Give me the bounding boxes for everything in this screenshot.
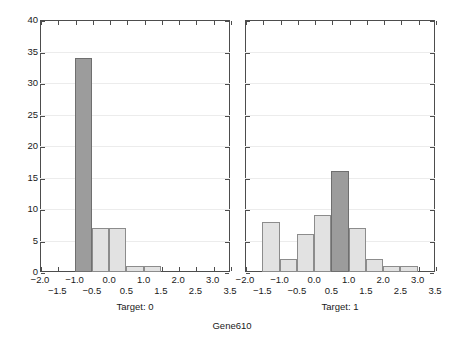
x-tick-label: 3.5 [428,286,441,296]
panel-caption-target-0: Target: 0 [40,301,230,312]
bars-target-1 [245,20,435,272]
x-tick-label: 1.0 [342,275,355,285]
panel-caption-target-1: Target: 1 [245,301,435,312]
histogram-bar [280,259,297,272]
x-tick-label: 0.5 [120,286,133,296]
histogram-bar [383,266,400,272]
histogram-bar [331,171,348,272]
histogram-bar [109,228,126,272]
x-tick-label: 0.0 [102,275,115,285]
y-tick-label: 30 [16,78,38,88]
x-axis-tick-top [231,21,232,25]
y-tick-label: 5 [16,236,38,246]
x-tick-label: 0.0 [307,275,320,285]
panel-target-1 [245,20,435,272]
histogram-bar [144,266,161,272]
x-axis-tick [436,267,437,271]
y-tick-label: 35 [16,47,38,57]
histogram-bar [126,266,143,272]
y-axis-tick-labels: 0510152025303540 [16,0,38,344]
x-axis-tick-labels-target-0: −2.0−1.5−1.0−0.50.00.51.01.52.02.53.03.5 [40,274,230,304]
x-tick-label: −0.5 [287,286,306,296]
x-tick-label: −2.0 [236,275,255,285]
x-axis-tick-top [436,21,437,25]
x-tick-label: 3.0 [206,275,219,285]
y-tick-label: 10 [16,204,38,214]
histogram-bar [262,222,279,272]
histogram-bar [314,215,331,272]
x-tick-label: −1.0 [65,275,84,285]
x-tick-label: 1.0 [137,275,150,285]
x-tick-label: −1.5 [253,286,272,296]
x-tick-label: 2.5 [394,286,407,296]
x-axis-tick [231,267,232,271]
y-tick-label: 15 [16,173,38,183]
histogram-bar [349,228,366,272]
x-tick-label: −0.5 [82,286,101,296]
bars-target-0 [40,20,230,272]
histogram-bar [366,259,383,272]
histogram-bar [75,58,92,272]
histogram-bar [400,266,417,272]
y-tick-label: 40 [16,15,38,25]
histogram-figure: No of obs 0510152025303540 −2.0−1.5−1.0−… [0,0,464,344]
histogram-bar [297,234,314,272]
figure-title: Gene610 [0,320,464,331]
x-tick-label: 3.5 [223,286,236,296]
x-tick-label: 2.0 [172,275,185,285]
x-tick-label: 0.5 [325,286,338,296]
x-tick-label: 3.0 [411,275,424,285]
x-axis-tick-labels-target-1: −2.0−1.5−1.0−0.50.00.51.01.52.02.53.03.5 [245,274,435,304]
x-tick-label: 2.5 [189,286,202,296]
x-tick-label: 1.5 [154,286,167,296]
x-tick-label: −1.5 [48,286,67,296]
x-tick-label: 1.5 [359,286,372,296]
y-tick-label: 25 [16,110,38,120]
y-tick-label: 20 [16,141,38,151]
histogram-bar [92,228,109,272]
x-tick-label: 2.0 [377,275,390,285]
x-tick-label: −2.0 [31,275,50,285]
x-tick-label: −1.0 [270,275,289,285]
panel-target-0 [40,20,230,272]
